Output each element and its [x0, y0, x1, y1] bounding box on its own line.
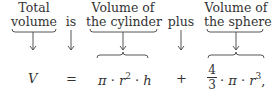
- brace-total-volume: [12, 29, 56, 32]
- comma: ,: [261, 73, 265, 88]
- label-plus: plus: [166, 15, 196, 29]
- label-volume-sphere: Volume of the sphere: [204, 1, 268, 29]
- arrow-total-volume: [30, 32, 36, 50]
- equation-lhs: V: [28, 71, 37, 86]
- label-line: Volume of: [86, 1, 160, 15]
- brace-sphere: [207, 29, 263, 32]
- numerator: 4: [207, 63, 217, 78]
- brace-cylinder: [90, 29, 157, 32]
- arrow-is: [68, 30, 74, 50]
- pi-symbol: π: [228, 73, 237, 88]
- pi-symbol: π: [98, 73, 107, 88]
- label-line: the cylinder: [86, 15, 160, 29]
- exponent: 2: [125, 71, 131, 81]
- label-line: Volume of: [204, 1, 268, 15]
- arrow-cylinder: [120, 32, 126, 50]
- label-line: the sphere: [204, 15, 268, 29]
- dot: ·: [111, 73, 115, 88]
- label-line: Total: [10, 1, 58, 15]
- equation-plus: +: [176, 71, 187, 86]
- label-is: is: [62, 15, 80, 29]
- equation-equals: =: [66, 71, 77, 86]
- h-symbol: h: [143, 73, 151, 88]
- arrow-plus: [178, 30, 184, 50]
- dot: ·: [135, 73, 139, 88]
- dot: ·: [220, 73, 224, 88]
- denominator: 3: [207, 78, 217, 92]
- dot: ·: [241, 73, 245, 88]
- label-total-volume: Total volume: [10, 1, 58, 29]
- equation-sphere: · π · r3,: [220, 71, 265, 88]
- arrow-sphere: [233, 32, 239, 50]
- fraction-four-thirds: 4 3: [207, 63, 217, 92]
- label-volume-cylinder: Volume of the cylinder: [86, 1, 160, 29]
- label-line: volume: [10, 15, 58, 29]
- brace-sphere-formula: [208, 52, 264, 58]
- brace-cylinder-formula: [97, 52, 148, 58]
- equation-cylinder: π · r2 · h: [98, 71, 152, 88]
